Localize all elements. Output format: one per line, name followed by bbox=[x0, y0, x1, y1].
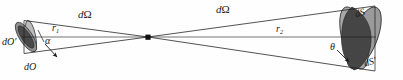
left-normal-tick bbox=[38, 30, 44, 42]
left-cone-upper-ray bbox=[24, 21, 148, 38]
label-theta: θ bbox=[330, 42, 335, 52]
label-r1: r1 bbox=[52, 23, 59, 34]
label-d-omega-right-omega: Ω bbox=[222, 3, 230, 15]
label-r2-sub: 2 bbox=[280, 28, 283, 35]
label-d-omega-left: dΩ bbox=[78, 9, 92, 20]
cone-apex-point bbox=[145, 35, 150, 40]
diagram-svg bbox=[0, 0, 403, 80]
label-r1-sub: 1 bbox=[56, 27, 59, 34]
angle-indicator-arrows bbox=[45, 44, 349, 62]
label-dO-prime: dO′ bbox=[2, 37, 16, 47]
cone-end-chords bbox=[24, 6, 375, 71]
label-r2: r2 bbox=[276, 24, 283, 35]
cone-rays bbox=[22, 6, 376, 71]
figure-canvas: dΩ dΩ r1 r2 α θ dO′ dO dS dS′ bbox=[0, 0, 403, 80]
label-alpha: α bbox=[45, 36, 50, 46]
label-d-omega-left-omega: Ω bbox=[84, 8, 92, 20]
label-dO: dO bbox=[24, 62, 36, 72]
label-d-omega-right: dΩ bbox=[216, 4, 230, 15]
